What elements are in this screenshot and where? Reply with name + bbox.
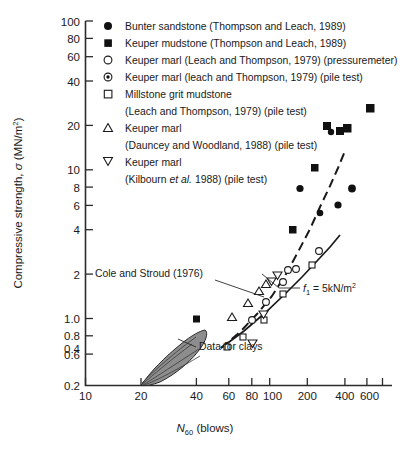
x-ticklabel-10: 10 <box>79 390 92 402</box>
data-point <box>296 185 303 192</box>
legend-label-bunter-sandstone[interactable]: Bunter sandstone (Thompson and Leach, 19… <box>125 21 346 32</box>
data-point <box>334 201 341 208</box>
legend-label-millstone-grit-mudstone[interactable]: Millstone grit mudstone <box>125 89 232 100</box>
y-axis-title: Compressive strength, σ (MN/m2) <box>11 117 24 288</box>
data-point <box>348 185 356 193</box>
y-ticklabel-0.2: 0.2 <box>64 380 80 392</box>
legend-label-keuper-marl-dauncey[interactable]: Keuper marl <box>125 123 182 134</box>
legend-marker-open-circle <box>104 56 112 64</box>
legend-label-keuper-mudstone[interactable]: Keuper mudstone (Thompson and Leach, 198… <box>125 38 346 49</box>
data-point <box>328 129 334 135</box>
data-point <box>240 334 246 340</box>
data-point <box>317 210 324 217</box>
data-point <box>293 266 300 273</box>
data-for-clays-annotation-label: Data for clays <box>199 341 263 352</box>
data-point <box>316 248 323 255</box>
legend-label-keuper-marl-pile-test[interactable]: Keuper marl (leach and Thompson, 1979) (… <box>125 72 363 83</box>
y-ticklabel-2: 2 <box>74 269 80 281</box>
data-point <box>263 299 270 306</box>
legend-label-keuper-marl-pressuremeter[interactable]: Keuper marl (Leach and Thompson, 1979) (… <box>125 55 397 66</box>
legend-marker-filled-square <box>104 39 112 47</box>
chart-background <box>0 0 409 449</box>
x-ticklabel-80: 80 <box>245 390 258 402</box>
cole-and-stroud-annotation-label: Cole and Stroud (1976) <box>95 268 203 279</box>
legend-marker-dot-circle <box>104 73 112 81</box>
data-point <box>280 291 286 297</box>
data-point <box>193 316 200 323</box>
data-point <box>309 262 315 268</box>
y-ticklabel-60: 60 <box>67 51 80 63</box>
data-point <box>311 164 319 172</box>
y-axis-title-group: Compressive strength, σ (MN/m2) <box>11 117 24 288</box>
y-ticklabel-10: 10 <box>67 164 80 176</box>
legend-marker-open-square <box>104 90 112 98</box>
x-ticklabel-60: 60 <box>222 390 235 402</box>
y-ticklabel-6: 6 <box>74 200 80 212</box>
y-ticklabel-80: 80 <box>67 33 80 45</box>
y-ticklabel-20: 20 <box>67 120 80 132</box>
data-point <box>366 104 375 113</box>
chart-svg: 100 80 60 40 20 10 8 6 4 2 1.0 0.8 0.6 0… <box>0 0 409 449</box>
x-ticklabel-20: 20 <box>135 390 148 402</box>
x-ticklabel-400: 400 <box>335 390 354 402</box>
y-ticklabel-40: 40 <box>67 76 80 88</box>
legend-label-keuper-marl-dauncey-cont: (Dauncey and Woodland, 1988) (pile test) <box>125 140 317 151</box>
data-point <box>336 127 344 135</box>
x-ticklabel-200: 200 <box>298 390 317 402</box>
data-point <box>249 317 256 324</box>
legend-marker-filled-circle <box>104 22 112 30</box>
legend-label-keuper-marl-kilbourn[interactable]: Keuper marl <box>125 157 182 168</box>
y-ticklabel-0.8: 0.8 <box>64 330 80 342</box>
data-point <box>343 124 352 133</box>
legend-label-keuper-marl-kilbourn-cont: (Kilbourn et al. 1988) (pile test) <box>125 174 267 185</box>
legend-label-millstone-grit-mudstone-cont: (Leach and Thompson, 1979) (pile test) <box>125 106 307 117</box>
data-point <box>323 122 331 130</box>
data-point <box>280 279 287 286</box>
data-point <box>289 226 297 234</box>
x-ticklabel-600: 600 <box>360 390 379 402</box>
x-ticklabel-100: 100 <box>263 390 282 402</box>
y-ticklabel-1: 1.0 <box>64 313 80 325</box>
data-point <box>285 267 292 274</box>
y-ticklabel-100: 100 <box>61 16 80 28</box>
y-ticklabel-8: 8 <box>74 182 80 194</box>
compressive-strength-vs-n60-chart: 100 80 60 40 20 10 8 6 4 2 1.0 0.8 0.6 0… <box>0 0 409 449</box>
y-ticklabel-4: 4 <box>74 224 81 236</box>
x-ticklabel-40: 40 <box>190 390 203 402</box>
y-ticklabel-0.4: 0.4 <box>64 343 81 355</box>
